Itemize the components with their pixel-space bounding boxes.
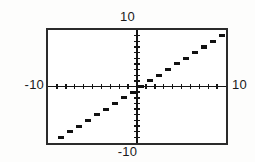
- x-min-label: -10: [6, 78, 44, 91]
- step-function-plot: [48, 30, 226, 143]
- x-max-label: 10: [232, 78, 255, 91]
- y-min-label: -10: [0, 145, 255, 158]
- plot-frame: [46, 28, 228, 145]
- calculator-screenshot: 10 -10 10 -10: [0, 0, 255, 162]
- y-max-label: 10: [0, 10, 255, 23]
